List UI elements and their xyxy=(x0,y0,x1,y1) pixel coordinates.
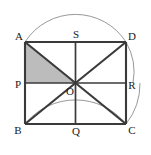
label-point-o: O xyxy=(66,85,74,97)
label-point-s: S xyxy=(73,28,79,40)
inner-arc-right-tail xyxy=(126,42,134,83)
label-point-b: B xyxy=(14,124,21,136)
label-point-d: D xyxy=(128,30,136,42)
geometry-figure: A D C B S R Q P O xyxy=(0,0,151,155)
label-point-p: P xyxy=(15,78,21,90)
label-point-a: A xyxy=(15,30,23,42)
label-point-r: R xyxy=(128,79,136,91)
label-point-c: C xyxy=(128,124,135,136)
geometry-diagram-canvas: A D C B S R Q P O xyxy=(0,0,151,155)
label-point-q: Q xyxy=(72,125,80,137)
